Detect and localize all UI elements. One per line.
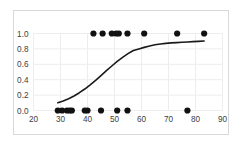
data-point-marker: [100, 30, 106, 36]
y-axis-tick-label: 0.6: [17, 60, 29, 69]
data-point-marker: [84, 107, 90, 113]
data-point-marker: [98, 107, 104, 113]
y-axis-tick-label: 0.0: [17, 107, 29, 116]
grid-lines: [34, 34, 223, 111]
x-axis-tick-label: 40: [83, 115, 93, 124]
data-point-marker: [174, 30, 180, 36]
data-point-marker: [114, 107, 120, 113]
y-axis-tick-label: 1.0: [17, 30, 29, 39]
y-axis-tick-label: 0.4: [17, 76, 29, 85]
y-axis-tick-label: 0.8: [17, 45, 29, 54]
x-axis-tick-label: 80: [191, 115, 201, 124]
x-axis-tick-label: 20: [29, 115, 39, 124]
y-axis-tick-labels: 0.00.20.40.60.81.0: [17, 30, 29, 116]
x-axis-tick-label: 30: [56, 115, 66, 124]
data-point-marker: [201, 30, 207, 36]
logistic-curve-path: [58, 41, 204, 103]
data-point-marker: [69, 107, 75, 113]
y-axis-tick-label: 0.2: [17, 91, 29, 100]
data-point-marker: [184, 107, 190, 113]
data-point-marker: [116, 30, 122, 36]
chart-figure: 0.00.20.40.60.81.0 2030405060708090: [0, 0, 243, 146]
data-point-marker: [124, 30, 130, 36]
x-axis-tick-labels: 2030405060708090: [29, 115, 228, 124]
x-axis-tick-label: 70: [164, 115, 174, 124]
data-point-marker: [124, 107, 130, 113]
x-axis-tick-label: 50: [110, 115, 120, 124]
scatter-plot-svg: 0.00.20.40.60.81.0 2030405060708090: [0, 0, 243, 146]
x-axis-tick-label: 60: [137, 115, 147, 124]
fitted-logistic-curve: [58, 41, 204, 103]
data-point-marker: [90, 30, 96, 36]
data-point-marker: [141, 30, 147, 36]
x-axis-tick-label: 90: [218, 115, 228, 124]
